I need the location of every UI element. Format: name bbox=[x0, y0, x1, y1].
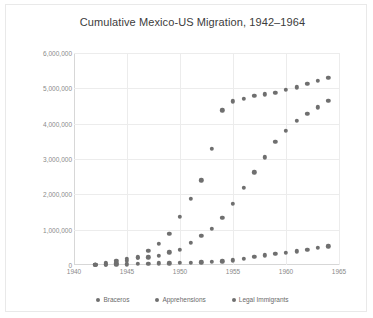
data-point bbox=[284, 251, 288, 255]
x-tick-label: 1945 bbox=[107, 268, 147, 275]
legend-item[interactable]: Apprehensions bbox=[155, 296, 205, 303]
data-point bbox=[199, 234, 203, 238]
gridline-horizontal bbox=[74, 53, 339, 54]
data-point bbox=[326, 98, 330, 102]
y-tick-label: 3,000,000 bbox=[12, 156, 72, 163]
data-point bbox=[146, 248, 150, 252]
data-point bbox=[241, 256, 245, 260]
data-point bbox=[178, 215, 182, 219]
gridline-vertical bbox=[127, 53, 128, 265]
gridline-vertical bbox=[180, 53, 181, 265]
x-axis-tick-labels: 194019451950195519601965 bbox=[74, 265, 339, 279]
x-tick-label: 1955 bbox=[213, 268, 253, 275]
data-point bbox=[178, 248, 182, 252]
data-point bbox=[231, 258, 235, 262]
data-point bbox=[294, 249, 298, 253]
data-point bbox=[167, 250, 171, 254]
data-point bbox=[188, 197, 192, 201]
data-point bbox=[167, 231, 171, 235]
data-point bbox=[305, 112, 309, 116]
chart-title: Cumulative Mexico-US Migration, 1942–196… bbox=[6, 16, 373, 28]
data-point bbox=[157, 242, 161, 246]
gridline-vertical bbox=[286, 53, 287, 265]
chart-legend: BracerosApprehensionsLegal Immigrants bbox=[6, 296, 373, 303]
data-point bbox=[252, 94, 256, 98]
y-tick-label: 5,000,000 bbox=[12, 85, 72, 92]
data-point bbox=[231, 99, 235, 103]
legend-marker-icon bbox=[232, 298, 236, 302]
legend-item[interactable]: Braceros bbox=[96, 296, 129, 303]
legend-label: Braceros bbox=[103, 296, 129, 303]
legend-marker-icon bbox=[96, 298, 100, 302]
data-point bbox=[146, 255, 150, 259]
data-point bbox=[273, 90, 277, 94]
data-point bbox=[316, 246, 320, 250]
data-point bbox=[252, 170, 256, 174]
data-point bbox=[157, 254, 161, 258]
data-point bbox=[294, 119, 298, 123]
x-tick-label: 1950 bbox=[160, 268, 200, 275]
data-point bbox=[326, 76, 330, 80]
legend-marker-icon bbox=[155, 298, 159, 302]
plot-area bbox=[74, 53, 339, 265]
gridline-horizontal bbox=[74, 230, 339, 231]
gridline-vertical bbox=[339, 53, 340, 265]
legend-label: Legal Immigrants bbox=[239, 296, 289, 303]
data-point bbox=[273, 252, 277, 256]
data-point bbox=[284, 88, 288, 92]
data-point bbox=[263, 92, 267, 96]
data-point bbox=[316, 105, 320, 109]
data-point bbox=[135, 255, 139, 259]
data-point bbox=[305, 82, 309, 86]
data-point bbox=[241, 96, 245, 100]
data-point bbox=[220, 259, 224, 263]
data-point bbox=[188, 241, 192, 245]
y-tick-label: 6,000,000 bbox=[12, 50, 72, 57]
legend-item[interactable]: Legal Immigrants bbox=[232, 296, 289, 303]
gridline-horizontal bbox=[74, 88, 339, 89]
y-tick-label: 1,000,000 bbox=[12, 226, 72, 233]
x-tick-label: 1960 bbox=[266, 268, 306, 275]
data-point bbox=[305, 248, 309, 252]
data-point bbox=[231, 202, 235, 206]
data-point bbox=[326, 244, 330, 248]
data-point bbox=[220, 108, 224, 112]
data-point bbox=[199, 178, 203, 182]
chart-frame: Cumulative Mexico-US Migration, 1942–196… bbox=[5, 4, 367, 312]
data-point bbox=[210, 147, 214, 151]
gridline-horizontal bbox=[74, 194, 339, 195]
data-point bbox=[316, 78, 320, 82]
data-point bbox=[273, 140, 277, 144]
data-point bbox=[284, 129, 288, 133]
y-tick-label: 4,000,000 bbox=[12, 120, 72, 127]
gridline-vertical bbox=[233, 53, 234, 265]
data-point bbox=[220, 216, 224, 220]
data-point bbox=[263, 253, 267, 257]
y-axis-tick-labels: 01,000,0002,000,0003,000,0004,000,0005,0… bbox=[6, 53, 72, 265]
x-tick-label: 1965 bbox=[319, 268, 359, 275]
gridline-horizontal bbox=[74, 159, 339, 160]
gridline-horizontal bbox=[74, 124, 339, 125]
legend-label: Apprehensions bbox=[162, 296, 205, 303]
data-point bbox=[241, 186, 245, 190]
data-point bbox=[252, 255, 256, 259]
x-tick-label: 1940 bbox=[54, 268, 94, 275]
y-tick-label: 2,000,000 bbox=[12, 191, 72, 198]
